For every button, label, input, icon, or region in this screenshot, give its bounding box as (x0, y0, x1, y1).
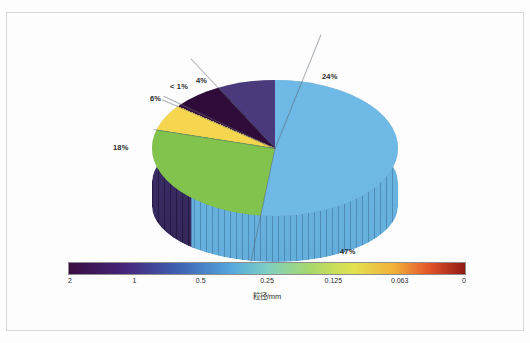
colorbar-tick-1: 1 (132, 277, 136, 284)
pie-chart-figure: 24% 4% < 1% 6% 18% 47% 210.50.250.1250.0… (0, 0, 530, 343)
colorbar-tick-4: 0.125 (325, 277, 343, 284)
colorbar-axis-label: 粒径/mm (68, 290, 466, 301)
pie-label-darkest: < 1% (170, 82, 188, 91)
colorbar-tick-2: 0.5 (196, 277, 206, 284)
colorbar-gradient (68, 262, 466, 275)
colorbar-tick-6: 0 (462, 277, 466, 284)
page-border-right (523, 12, 524, 331)
pie-label-green: 24% (322, 72, 338, 81)
pie-label-yellow: 4% (196, 76, 207, 85)
colorbar-group: 210.50.250.1250.0630 粒径/mm (68, 262, 466, 289)
pie-label-blue: 47% (340, 247, 356, 256)
colorbar-tick-0: 2 (68, 277, 72, 284)
pie-label-purple: 18% (113, 143, 129, 152)
page-border-bottom (6, 330, 524, 331)
colorbar-tick-5: 0.063 (391, 277, 409, 284)
page-border-left (6, 12, 7, 331)
colorbar-tick-3: 0.25 (260, 277, 274, 284)
pie-top-face (152, 80, 398, 216)
pie-label-dark-purple: 6% (150, 94, 161, 103)
colorbar-tick-labels: 210.50.250.1250.0630 (68, 277, 466, 289)
pie-chart (152, 80, 398, 265)
page-border-top (6, 12, 524, 13)
